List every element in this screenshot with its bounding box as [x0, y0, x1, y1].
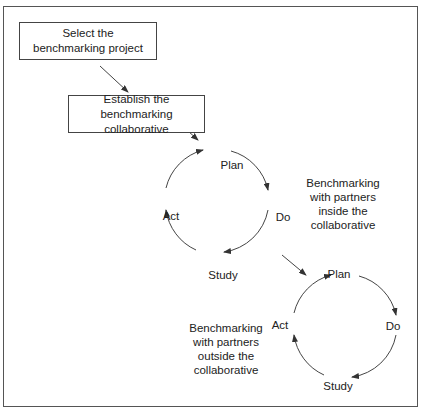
cycle-inside-act: Act — [163, 209, 180, 223]
note-line: collaborative — [189, 363, 263, 377]
cycle-inside-plan: Plan — [220, 158, 243, 172]
select-project-line-2: benchmarking project — [33, 41, 143, 56]
cycle-outside-arcs — [294, 275, 396, 377]
note-line: with partners — [306, 190, 380, 204]
select-project-box: Select the benchmarking project — [19, 22, 157, 60]
note-line: collaborative — [306, 218, 380, 232]
note-line: with partners — [189, 335, 263, 349]
cycle-outside-study: Study — [323, 379, 352, 393]
cycle-outside-act: Act — [272, 318, 289, 332]
establish-collaborative-box: Establish the benchmarking collaborative — [68, 95, 205, 133]
cycle-outside-do: Do — [386, 319, 401, 333]
establish-line-2: benchmarking collaborative — [69, 107, 204, 137]
note-line: Benchmarking — [306, 176, 380, 190]
note-line: inside the — [306, 204, 380, 218]
arrow-inside-to-outside — [282, 255, 306, 275]
cycle-inside-do: Do — [276, 210, 291, 224]
inside-collaborative-note: Benchmarking with partners inside the co… — [306, 176, 380, 232]
cycle-inside-study: Study — [208, 268, 237, 282]
outside-collaborative-note: Benchmarking with partners outside the c… — [189, 321, 263, 377]
arrow-select-to-establish — [100, 66, 128, 92]
cycle-inside-arcs — [166, 150, 268, 252]
note-line: outside the — [189, 349, 263, 363]
cycle-outside-plan: Plan — [327, 267, 350, 281]
select-project-line-1: Select the — [33, 26, 143, 41]
note-line: Benchmarking — [189, 321, 263, 335]
establish-line-1: Establish the — [69, 92, 204, 107]
